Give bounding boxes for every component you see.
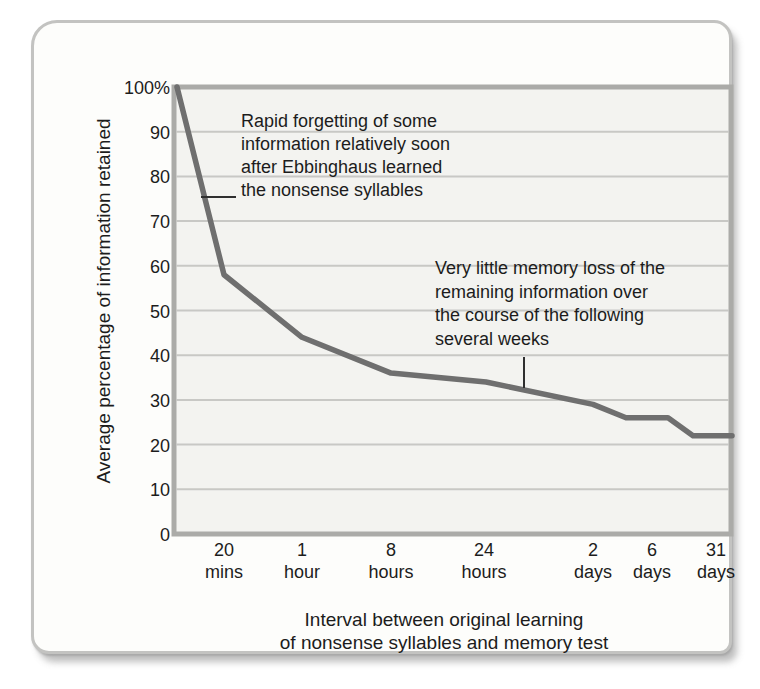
x-axis-title: Interval between original learning of no… [174,608,714,654]
y-tick-label: 0 [104,524,170,546]
x-tick-label: 1 hour [254,539,350,583]
x-tick-label: 2 days [545,539,641,583]
annotation-rapid-forgetting: Rapid forgetting of some information rel… [241,110,521,202]
x-tick-label: 20 mins [176,539,272,583]
x-tick-label: 24 hours [436,539,532,583]
x-tick-label: 6 days [604,539,700,583]
chart-card: Average percentage of information retain… [31,20,732,654]
y-axis-title: Average percentage of information retain… [92,91,116,511]
annotation-little-memory-loss: Very little memory loss of the remaining… [435,257,735,351]
page: Average percentage of information retain… [0,0,760,689]
x-tick-label: 31 days [668,539,760,583]
annotation-leader-line-rapid-forgetting [201,196,236,198]
x-tick-label: 8 hours [343,539,439,583]
annotation-leader-line-little-memory-loss [523,357,525,388]
